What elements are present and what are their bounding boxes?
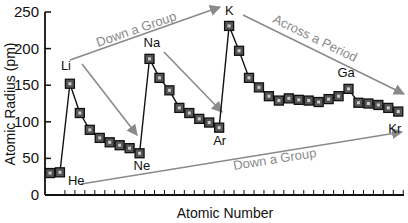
data-point-cr bbox=[274, 96, 283, 105]
y-tick-label: 50 bbox=[22, 149, 39, 166]
y-tick-label: 250 bbox=[14, 3, 39, 20]
data-point-ti bbox=[254, 83, 263, 92]
data-point-fe bbox=[294, 95, 303, 104]
label-li: Li bbox=[61, 58, 71, 73]
down-a-group-top-label: Down a Group bbox=[94, 8, 178, 49]
across-a-period-arrow bbox=[243, 15, 404, 94]
data-point-cu bbox=[324, 95, 333, 104]
data-point-cl bbox=[205, 118, 214, 127]
data-point-f bbox=[125, 144, 134, 153]
data-point-b bbox=[85, 125, 94, 134]
y-tick-label: 0 bbox=[31, 186, 39, 203]
atomic-radius-chart: 050100150200250 Atomic Radius (pm) Atomi… bbox=[0, 0, 408, 223]
period-3-arrow bbox=[164, 52, 222, 112]
label-he: He bbox=[68, 173, 85, 188]
data-point-sc bbox=[245, 73, 254, 82]
data-point-li bbox=[65, 79, 74, 88]
label-na: Na bbox=[144, 35, 161, 50]
data-point-mg bbox=[155, 73, 164, 82]
data-point-k bbox=[225, 21, 234, 30]
label-ne: Ne bbox=[134, 158, 151, 173]
data-point-br bbox=[384, 103, 393, 112]
data-point-ga bbox=[344, 84, 353, 93]
data-point-mn bbox=[284, 94, 293, 103]
down-a-group-bottom-label: Down a Group bbox=[232, 145, 317, 173]
data-point-al bbox=[165, 86, 174, 95]
data-point-n bbox=[105, 138, 114, 147]
data-point-na bbox=[145, 54, 154, 63]
data-point-ge bbox=[354, 98, 363, 107]
data-point-as bbox=[364, 99, 373, 108]
data-point-ne bbox=[135, 149, 144, 158]
data-point-se bbox=[374, 100, 383, 109]
data-point-c bbox=[95, 133, 104, 142]
data-point-v bbox=[264, 92, 273, 101]
data-point-he bbox=[55, 168, 64, 177]
label-kr: Kr bbox=[388, 121, 402, 136]
data-point-ni bbox=[314, 98, 323, 107]
data-point-kr bbox=[394, 107, 403, 116]
data-point-p bbox=[185, 109, 194, 118]
y-axis-title: Atomic Radius (pm) bbox=[2, 43, 18, 166]
data-point-co bbox=[304, 96, 313, 105]
data-point-si bbox=[175, 103, 184, 112]
label-ga: Ga bbox=[338, 65, 356, 80]
data-point-be bbox=[75, 109, 84, 118]
x-axis bbox=[45, 190, 404, 195]
data-point-ca bbox=[235, 46, 244, 55]
data-point-h bbox=[46, 169, 55, 178]
x-axis-title: Atomic Number bbox=[177, 205, 274, 221]
data-point-s bbox=[195, 114, 204, 123]
across-a-period-label: Across a Period bbox=[271, 11, 360, 65]
label-ar: Ar bbox=[213, 133, 227, 148]
period-2-arrow bbox=[82, 64, 137, 135]
data-point-o bbox=[115, 141, 124, 150]
data-point-zn bbox=[334, 92, 343, 101]
label-k: K bbox=[225, 3, 234, 18]
data-point-ar bbox=[215, 123, 224, 132]
